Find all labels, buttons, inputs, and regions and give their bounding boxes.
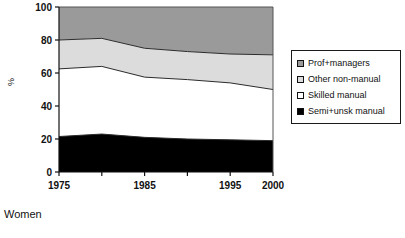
y-axis-tick-label: 20: [41, 134, 53, 145]
chart-figure: 0204060801001975198519952000 % Prof+mana…: [0, 0, 405, 238]
y-axis-tick-label: 100: [35, 2, 52, 13]
figure-caption: Women: [4, 208, 42, 220]
legend-item-prof-managers[interactable]: Prof+managers: [297, 55, 396, 71]
stacked-area-chart: 0204060801001975198519952000: [0, 0, 285, 200]
y-axis-tick-label: 60: [41, 68, 53, 79]
legend-label-semi-unsk-manual: Semi+unsk manual: [308, 107, 385, 116]
x-axis-tick-label: 1985: [133, 180, 156, 191]
legend-swatch-prof-managers: [297, 60, 304, 67]
y-axis-tick-label: 40: [41, 101, 53, 112]
chart-legend: Prof+managers Other non-manual Skilled m…: [291, 50, 401, 124]
x-axis-tick-label: 1995: [219, 180, 242, 191]
y-axis-label: %: [6, 78, 16, 86]
plot-area: 0204060801001975198519952000: [0, 0, 285, 200]
legend-swatch-skilled-manual: [297, 92, 304, 99]
legend-label-other-non-manual: Other non-manual: [308, 75, 381, 84]
legend-item-semi-unsk-manual[interactable]: Semi+unsk manual: [297, 103, 396, 119]
y-axis-tick-label: 0: [46, 167, 52, 178]
legend-label-prof-managers: Prof+managers: [308, 59, 370, 68]
legend-item-skilled-manual[interactable]: Skilled manual: [297, 87, 396, 103]
legend-swatch-other-non-manual: [297, 76, 304, 83]
legend-label-skilled-manual: Skilled manual: [308, 91, 367, 100]
legend-swatch-semi-unsk-manual: [297, 108, 304, 115]
legend-item-other-non-manual[interactable]: Other non-manual: [297, 71, 396, 87]
x-axis-tick-label: 2000: [262, 180, 285, 191]
x-axis-tick-label: 1975: [48, 180, 71, 191]
y-axis-tick-label: 80: [41, 35, 53, 46]
